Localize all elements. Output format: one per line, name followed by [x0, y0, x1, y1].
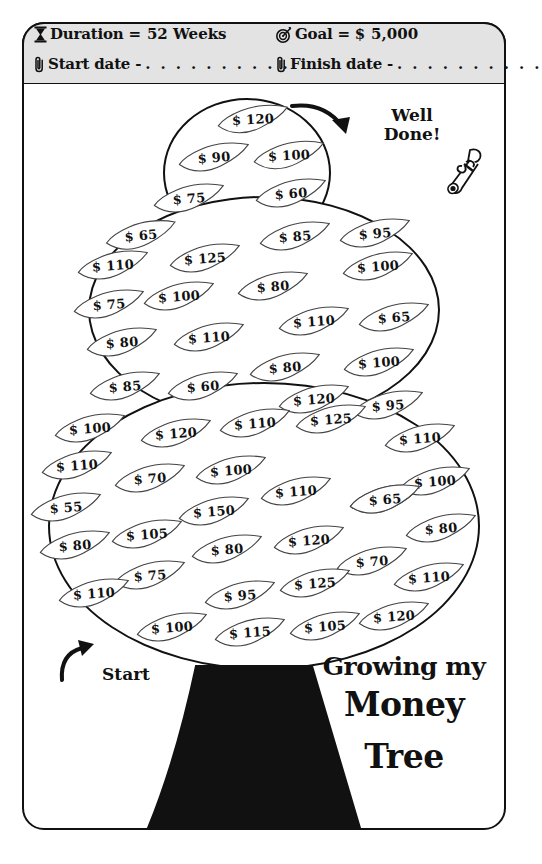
savings-leaf[interactable]: $ 110	[258, 473, 334, 508]
leaf-amount: $ 110	[171, 319, 247, 354]
leaf-amount: $ 90	[176, 139, 252, 174]
savings-leaf[interactable]: $ 125	[277, 565, 353, 600]
savings-leaf[interactable]: $ 60	[253, 175, 329, 210]
savings-leaf[interactable]: $ 80	[235, 268, 311, 303]
page-title: Growing my Money Tree	[316, 652, 492, 786]
diploma-scroll-icon	[440, 146, 488, 198]
leaf-amount: $ 80	[235, 268, 311, 303]
savings-leaf[interactable]: $ 150	[176, 493, 252, 528]
savings-leaf[interactable]: $ 100	[141, 278, 217, 313]
savings-leaf[interactable]: $ 75	[71, 286, 147, 321]
leaf-amount: $ 125	[293, 401, 369, 436]
leaf-amount: $ 125	[167, 240, 243, 275]
savings-leaf[interactable]: $ 55	[28, 489, 104, 524]
leaf-amount: $ 100	[340, 248, 416, 283]
leaf-amount: $ 85	[87, 368, 163, 403]
savings-leaf[interactable]: $ 110	[56, 575, 132, 610]
leaf-amount: $ 115	[212, 614, 288, 649]
title-line-1: Growing my	[316, 652, 492, 682]
leaf-amount: $ 65	[347, 481, 423, 516]
leaf-amount: $ 95	[337, 215, 413, 250]
leaf-amount: $ 110	[39, 447, 115, 482]
savings-leaf[interactable]: $ 80	[37, 527, 113, 562]
savings-leaf[interactable]: $ 110	[391, 559, 467, 594]
well-done-note: Well Done!	[372, 106, 452, 144]
savings-leaf[interactable]: $ 110	[75, 247, 151, 282]
savings-leaf[interactable]: $ 100	[341, 344, 417, 379]
savings-leaf[interactable]: $ 80	[189, 531, 265, 566]
leaf-amount: $ 110	[56, 575, 132, 610]
leaf-amount: $ 110	[276, 303, 352, 338]
leaf-amount: $ 150	[176, 493, 252, 528]
savings-leaf[interactable]: $ 110	[276, 303, 352, 338]
well-done-line2: Done!	[372, 125, 452, 144]
savings-leaf[interactable]: $ 105	[109, 516, 185, 551]
savings-leaf[interactable]: $ 85	[87, 368, 163, 403]
savings-leaf[interactable]: $ 90	[176, 139, 252, 174]
savings-leaf[interactable]: $ 65	[356, 299, 432, 334]
savings-leaf[interactable]: $ 100	[52, 410, 128, 445]
savings-leaf[interactable]: $ 125	[293, 401, 369, 436]
savings-leaf[interactable]: $ 70	[112, 460, 188, 495]
leaf-amount: $ 95	[202, 577, 278, 612]
leaf-amount: $ 80	[403, 510, 479, 545]
savings-leaf[interactable]: $ 80	[84, 324, 160, 359]
savings-leaf[interactable]: $ 110	[171, 319, 247, 354]
savings-leaf[interactable]: $ 100	[340, 248, 416, 283]
savings-leaf[interactable]: $ 120	[356, 598, 432, 633]
savings-leaf[interactable]: $ 110	[217, 405, 293, 440]
leaf-amount: $ 110	[258, 473, 334, 508]
savings-leaf[interactable]: $ 80	[247, 349, 323, 384]
leaf-amount: $ 85	[257, 218, 333, 253]
leaf-amount: $ 110	[382, 420, 458, 455]
savings-leaf[interactable]: $ 125	[167, 240, 243, 275]
leaf-amount: $ 100	[141, 278, 217, 313]
leaf-amount: $ 100	[341, 344, 417, 379]
savings-leaf[interactable]: $ 95	[337, 215, 413, 250]
savings-leaf[interactable]: $ 110	[39, 447, 115, 482]
leaf-amount: $ 110	[217, 405, 293, 440]
leaf-amount: $ 120	[138, 415, 214, 450]
savings-leaf[interactable]: $ 105	[287, 608, 363, 643]
leaf-amount: $ 80	[84, 324, 160, 359]
savings-leaf[interactable]: $ 110	[382, 420, 458, 455]
leaf-amount: $ 75	[71, 286, 147, 321]
savings-leaf[interactable]: $ 80	[403, 510, 479, 545]
leaf-amount: $ 100	[52, 410, 128, 445]
leaf-amount: $ 80	[247, 349, 323, 384]
leaf-amount: $ 80	[37, 527, 113, 562]
leaf-amount: $ 65	[356, 299, 432, 334]
top-arrow-icon	[288, 100, 368, 144]
savings-leaf[interactable]: $ 85	[257, 218, 333, 253]
savings-leaf[interactable]: $ 60	[165, 368, 241, 403]
leaf-amount: $ 110	[75, 247, 151, 282]
leaf-amount: $ 105	[109, 516, 185, 551]
leaf-amount: $ 120	[356, 598, 432, 633]
title-line-2: Money	[316, 682, 492, 728]
leaf-amount: $ 60	[253, 175, 329, 210]
savings-leaf[interactable]: $ 115	[212, 614, 288, 649]
savings-leaf[interactable]: $ 120	[215, 102, 290, 136]
leaf-amount: $ 110	[391, 559, 467, 594]
leaf-amount: $ 120	[215, 102, 290, 136]
leaf-amount: $ 75	[151, 180, 227, 215]
savings-leaf[interactable]: $ 75	[151, 180, 227, 215]
leaf-amount: $ 105	[287, 608, 363, 643]
savings-leaf[interactable]: $ 65	[347, 481, 423, 516]
leaf-amount: $ 100	[134, 609, 210, 644]
well-done-line1: Well	[372, 106, 452, 125]
savings-leaf[interactable]: $ 120	[138, 415, 214, 450]
title-line-3: Tree	[316, 728, 492, 786]
leaf-amount: $ 55	[28, 489, 104, 524]
start-label: Start	[102, 664, 150, 684]
leaf-amount: $ 70	[112, 460, 188, 495]
leaf-amount: $ 80	[189, 531, 265, 566]
leaf-amount: $ 125	[277, 565, 353, 600]
leaf-amount: $ 60	[165, 368, 241, 403]
savings-leaf[interactable]: $ 95	[202, 577, 278, 612]
savings-leaf[interactable]: $ 100	[134, 609, 210, 644]
